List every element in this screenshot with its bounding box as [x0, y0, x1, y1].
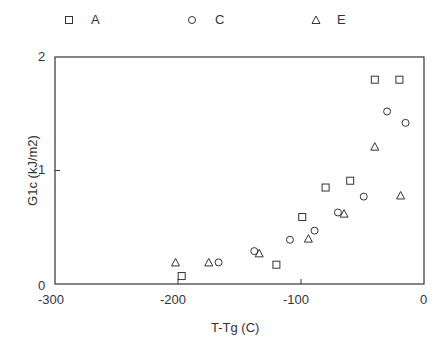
- data-point-a: [299, 214, 306, 221]
- x-axis-label: T-Tg (C): [211, 320, 259, 335]
- legend-marker-e: [312, 16, 320, 24]
- data-point-c: [402, 119, 409, 126]
- plot-frame: [55, 57, 424, 284]
- data-point-c: [215, 259, 222, 266]
- y-tick-2: 2: [38, 49, 45, 64]
- data-point-c: [384, 108, 391, 115]
- legend-marker-c: [189, 17, 196, 24]
- legend-label-a: A: [91, 12, 100, 27]
- legend-label-c: C: [215, 12, 224, 27]
- x-tick-neg100: -100: [283, 292, 309, 307]
- data-point-e: [205, 258, 213, 266]
- x-tick-0: 0: [420, 292, 427, 307]
- data-point-e: [397, 191, 405, 199]
- y-tick-0: 0: [38, 278, 45, 293]
- plot-area: [0, 0, 444, 346]
- data-point-e: [255, 249, 263, 257]
- data-point-a: [178, 273, 185, 280]
- legend-marker-a: [66, 17, 73, 24]
- data-point-a: [322, 184, 329, 191]
- data-point-c: [334, 209, 341, 216]
- data-point-a: [273, 261, 280, 268]
- data-point-e: [172, 258, 180, 266]
- data-point-c: [286, 236, 293, 243]
- data-point-e: [371, 143, 379, 151]
- legend-label-e: E: [337, 12, 346, 27]
- x-tick-neg200: -200: [160, 292, 186, 307]
- x-tick-neg300: -300: [38, 292, 64, 307]
- data-point-c: [311, 227, 318, 234]
- data-point-a: [396, 76, 403, 83]
- data-point-a: [371, 76, 378, 83]
- chart: A C E 2 1 0 -300 -200 -100 0 T-Tg (C) G1…: [0, 0, 444, 346]
- y-axis-label: G1c (kJ/m2): [25, 131, 40, 211]
- data-point-e: [304, 235, 312, 243]
- data-point-a: [347, 177, 354, 184]
- data-point-c: [360, 193, 367, 200]
